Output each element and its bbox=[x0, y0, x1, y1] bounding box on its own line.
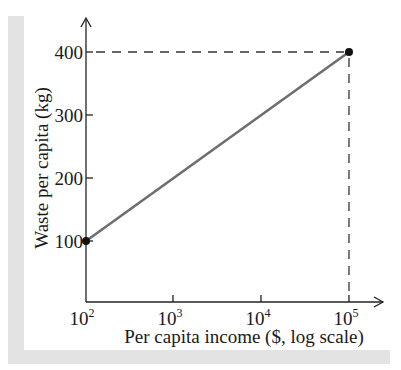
data-point-end bbox=[345, 48, 353, 56]
x-ticks bbox=[173, 295, 349, 302]
y-tick-label-200: 200 bbox=[55, 168, 84, 189]
x-tick-label-1e2: 102 bbox=[70, 306, 95, 329]
y-axis-title: Waste per capita (kg) bbox=[31, 87, 53, 248]
y-ticks bbox=[86, 52, 93, 241]
data-point-start bbox=[82, 237, 90, 245]
y-tick-label-300: 300 bbox=[55, 105, 84, 126]
y-tick-label-100: 100 bbox=[55, 231, 84, 252]
x-axis-title: Per capita income ($, log scale) bbox=[124, 326, 364, 348]
chart: 100 200 300 400 102 103 104 105 Per capi… bbox=[0, 0, 401, 370]
y-tick-label-400: 400 bbox=[55, 42, 84, 63]
data-line bbox=[86, 52, 349, 241]
